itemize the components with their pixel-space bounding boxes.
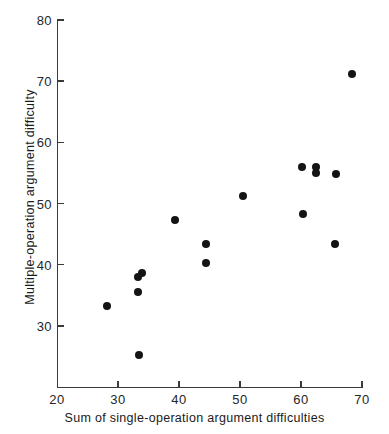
data-point (331, 240, 339, 248)
data-point (312, 169, 320, 177)
data-point (239, 192, 247, 200)
data-point (134, 288, 142, 296)
data-point (138, 269, 146, 277)
data-point (171, 216, 179, 224)
data-point (348, 70, 356, 78)
data-point (103, 302, 111, 310)
data-point (202, 240, 210, 248)
data-point (299, 210, 307, 218)
data-point (135, 351, 143, 359)
data-point (298, 163, 306, 171)
data-point (332, 170, 340, 178)
y-axis-title: Multiple-operation argument difficulty (23, 12, 37, 382)
data-points-layer (0, 0, 389, 434)
x-axis-title: Sum of single-operation argument difficu… (0, 411, 389, 425)
scatter-plot-figure: 304050607080 203040506070 Sum of single-… (0, 0, 389, 434)
data-point (202, 259, 210, 267)
